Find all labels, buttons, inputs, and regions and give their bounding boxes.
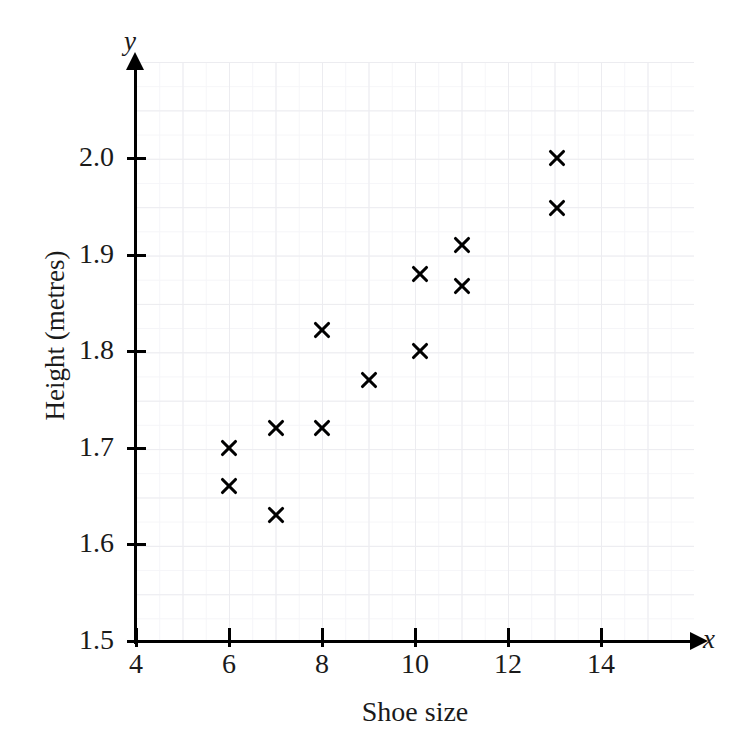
data-point-marker: [409, 263, 431, 285]
x-tick-mark: [321, 628, 324, 647]
data-point-marker: [358, 369, 380, 391]
data-point-marker: [265, 504, 287, 526]
y-tick-mark: [127, 157, 146, 160]
x-tick-mark: [507, 628, 510, 647]
data-point-marker: [218, 475, 240, 497]
data-point-marker: [451, 275, 473, 297]
x-axis-variable-label: x: [703, 626, 715, 653]
y-tick-mark: [127, 254, 146, 257]
y-tick-label: 1.6: [28, 529, 114, 557]
x-tick-mark: [135, 628, 138, 647]
data-point-marker: [546, 197, 568, 219]
data-point-marker: [451, 234, 473, 256]
y-axis-variable-label: y: [124, 28, 136, 55]
x-tick-mark: [414, 628, 417, 647]
x-tick-mark: [600, 628, 603, 647]
y-tick-mark: [127, 447, 146, 450]
x-tick-mark: [228, 628, 231, 647]
x-tick-label: 8: [292, 650, 352, 678]
data-point-marker: [265, 417, 287, 439]
data-point-marker: [409, 340, 431, 362]
x-tick-label: 4: [106, 650, 166, 678]
x-tick-label: 14: [571, 650, 631, 678]
data-point-marker: [311, 417, 333, 439]
x-tick-label: 10: [385, 650, 445, 678]
y-tick-mark: [127, 350, 146, 353]
data-point-marker: [546, 147, 568, 169]
data-point-marker: [311, 319, 333, 341]
y-tick-label: 1.5: [28, 626, 114, 654]
x-tick-label: 12: [478, 650, 538, 678]
y-axis-title: Height (metres): [40, 206, 71, 466]
y-tick-label: 2.0: [28, 143, 114, 171]
x-axis-title: Shoe size: [136, 696, 694, 728]
scatter-chart: Scatter graph y x 1.51.61.71.81.92.0 468…: [0, 0, 740, 756]
y-tick-mark: [127, 543, 146, 546]
x-tick-label: 6: [199, 650, 259, 678]
data-point-marker: [218, 437, 240, 459]
